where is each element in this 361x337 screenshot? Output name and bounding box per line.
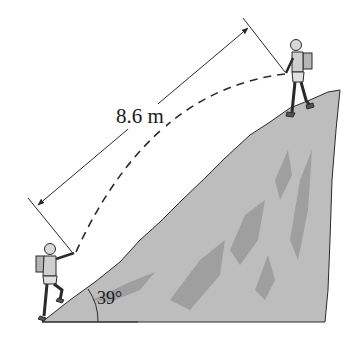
incline-diagram xyxy=(0,0,361,337)
dimension-tick-upper xyxy=(243,18,285,72)
angle-label: 39° xyxy=(97,288,122,309)
distance-label: 8.6 m xyxy=(114,104,166,129)
